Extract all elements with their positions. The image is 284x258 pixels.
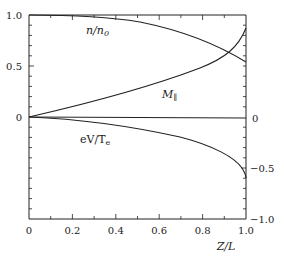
svg-text:0.2: 0.2 bbox=[64, 225, 80, 236]
line-chart: n/n0 M∥ eV/Te 0 0.2 0.4 0.6 0.8 1.0 1.0 … bbox=[0, 0, 284, 258]
svg-text:0: 0 bbox=[16, 112, 22, 123]
label-potential: eV/Te bbox=[80, 133, 111, 147]
svg-text:1.0: 1.0 bbox=[6, 10, 22, 21]
svg-text:−0.5: −0.5 bbox=[250, 163, 274, 174]
svg-text:0: 0 bbox=[252, 113, 258, 124]
series-zero-line bbox=[29, 117, 246, 118]
series-potential bbox=[29, 117, 246, 178]
x-axis-label: Z/L bbox=[216, 240, 236, 253]
svg-text:0: 0 bbox=[26, 225, 32, 236]
label-n-over-n0: n/n0 bbox=[86, 24, 109, 38]
svg-text:0.5: 0.5 bbox=[6, 61, 22, 72]
series-n-over-n0 bbox=[29, 15, 246, 62]
right-tick-labels: 0 −0.5 −1.0 bbox=[250, 113, 274, 225]
left-tick-labels: 1.0 0.5 0 bbox=[6, 10, 22, 123]
svg-text:0.4: 0.4 bbox=[108, 225, 124, 236]
svg-text:−1.0: −1.0 bbox=[250, 214, 274, 225]
svg-text:1.0: 1.0 bbox=[238, 225, 254, 236]
label-mach: M∥ bbox=[161, 88, 177, 102]
svg-text:0.6: 0.6 bbox=[151, 225, 167, 236]
x-tick-labels: 0 0.2 0.4 0.6 0.8 1.0 bbox=[26, 225, 254, 236]
chart-series bbox=[29, 15, 246, 178]
series-mach-parallel bbox=[29, 28, 246, 117]
svg-text:0.8: 0.8 bbox=[195, 225, 211, 236]
